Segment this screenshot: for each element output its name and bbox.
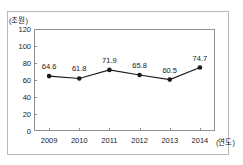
x-axis-unit-label: (연도) xyxy=(216,136,235,147)
x-axis-tick-label: 2013 xyxy=(161,136,178,145)
x-axis-tick-label: 2012 xyxy=(131,136,148,145)
data-point-value-label: 64.6 xyxy=(42,62,57,71)
data-point-value-label: 65.8 xyxy=(132,61,147,70)
data-point-labels: 64.661.871.965.860.574.7 xyxy=(34,29,215,131)
clipped-title-text xyxy=(6,0,166,2)
data-point-value-label: 61.8 xyxy=(72,64,87,73)
y-axis-tick-label: 100 xyxy=(7,42,31,51)
chart-screenshot: (조원) 020406080100120 2009201020112012201… xyxy=(0,0,243,165)
y-axis-tick-label: 40 xyxy=(7,93,31,102)
data-point-value-label: 71.9 xyxy=(102,56,117,65)
y-axis-tick-label: 120 xyxy=(7,25,31,34)
data-point-value-label: 60.5 xyxy=(162,66,177,75)
y-axis-tick-labels: 020406080100120 xyxy=(7,29,31,131)
x-axis-tick-label: 2010 xyxy=(71,136,88,145)
x-axis-tick-label: 2014 xyxy=(192,136,209,145)
y-axis-tick-label: 20 xyxy=(7,110,31,119)
x-axis-tick-label: 2011 xyxy=(101,136,117,145)
y-axis-tick-label: 80 xyxy=(7,59,31,68)
y-axis-tick-label: 0 xyxy=(7,127,31,136)
x-axis-tick-label: 2009 xyxy=(41,136,58,145)
data-point-value-label: 74.7 xyxy=(193,54,208,63)
y-axis-unit-label: (조원) xyxy=(9,14,28,25)
x-axis-tick-labels: 200920102011201220132014 xyxy=(34,136,215,148)
y-axis-tick-label: 60 xyxy=(7,76,31,85)
